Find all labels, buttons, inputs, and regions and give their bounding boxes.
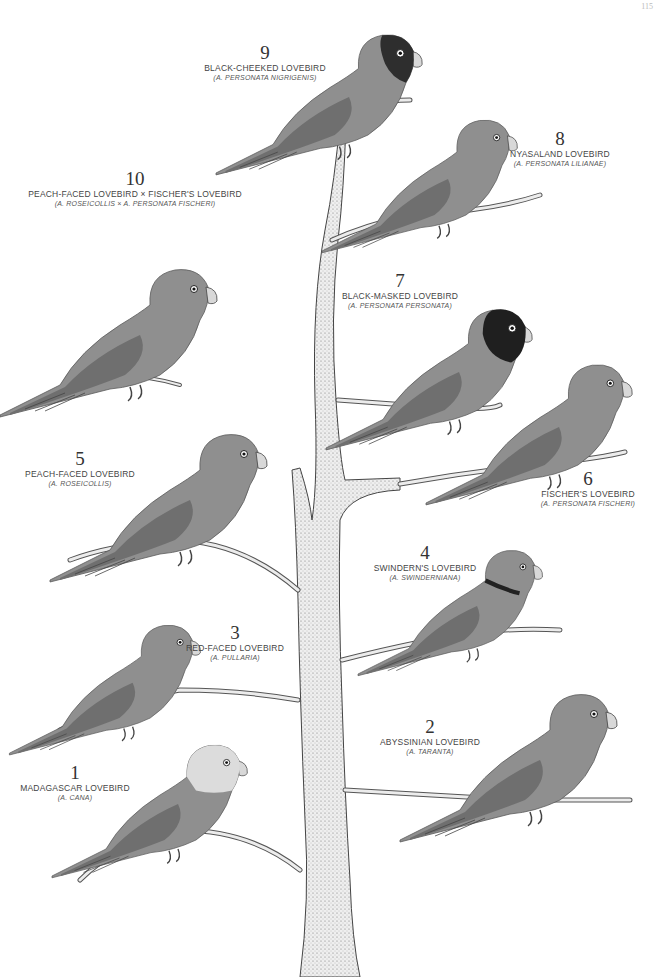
label-bird-2: 2 ABYSSINIAN LOVEBIRD (A. TARANTA) — [355, 716, 505, 756]
label-bird-5: 5 PEACH-FACED LOVEBIRD (A. ROSEICOLLIS) — [10, 448, 150, 488]
label-bird-3: 3 RED-FACED LOVEBIRD (A. PULLARIA) — [170, 622, 300, 662]
bird-10 — [0, 270, 217, 417]
label-bird-7: 7 BLACK-MASKED LOVEBIRD (A. PERSONATA PE… — [320, 270, 480, 310]
label-bird-8: 8 NYASALAND LOVEBIRD (A. PERSONATA LILIA… — [480, 128, 640, 168]
label-bird-10: 10 PEACH-FACED LOVEBIRD × FISCHER'S LOVE… — [10, 168, 260, 208]
label-bird-1: 1 MADAGASCAR LOVEBIRD (A. CANA) — [10, 762, 140, 802]
bird-7 — [326, 309, 532, 450]
label-bird-9: 9 BLACK-CHEEKED LOVEBIRD (A. PERSONATA N… — [170, 42, 360, 82]
label-bird-6: 6 FISCHER'S LOVEBIRD (A. PERSONATA FISCH… — [515, 468, 661, 508]
label-bird-4: 4 SWINDERN'S LOVEBIRD (A. SWINDERNIANA) — [345, 542, 505, 582]
